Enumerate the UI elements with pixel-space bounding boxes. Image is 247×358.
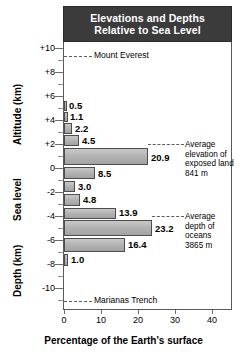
y-tick-minor bbox=[58, 180, 63, 181]
bar-2 bbox=[64, 123, 72, 134]
x-tick-label-30: 30 bbox=[163, 316, 187, 325]
y-tick-mark bbox=[55, 144, 63, 145]
bar-label-2: 2.2 bbox=[75, 124, 88, 134]
y-tick-minor bbox=[58, 204, 63, 205]
y-tick-minor bbox=[58, 252, 63, 253]
bar-label-4: 20.9 bbox=[151, 153, 170, 163]
chart-title-line-2: Relative to Sea Level bbox=[94, 24, 201, 37]
y-tick-mark bbox=[55, 72, 63, 73]
annotation-leader-line-land bbox=[148, 144, 184, 145]
x-tick-mark bbox=[101, 310, 102, 314]
chart-title-line-1: Elevations and Depths bbox=[90, 12, 205, 25]
y-tick-minor bbox=[58, 60, 63, 61]
bar-label-7: 4.8 bbox=[83, 195, 96, 205]
y-tick-label-10: +10 bbox=[11, 44, 55, 53]
bar-label-11: 1.0 bbox=[71, 255, 84, 265]
x-tick-mark bbox=[138, 310, 139, 314]
bar-3 bbox=[64, 135, 79, 146]
y-tick-minor bbox=[58, 228, 63, 229]
y-axis: +10 +8 +6 +4 +2 0 -2 -4 -6 -8 -10 bbox=[0, 0, 55, 358]
y-tick-mark bbox=[55, 216, 63, 217]
reference-label-marianas-trench: Marianas Trench bbox=[94, 296, 157, 305]
axis-group-label-altitude: Altitude (km) bbox=[12, 84, 23, 145]
bar-0 bbox=[64, 101, 67, 111]
y-tick-mark bbox=[55, 264, 63, 265]
axis-group-label-depth: Depth (km) bbox=[12, 245, 23, 297]
annotation-leader-line-ocean bbox=[152, 216, 184, 217]
x-tick-label-40: 40 bbox=[200, 316, 224, 325]
x-tick-mark bbox=[175, 310, 176, 314]
reference-label-mount-everest: Mount Everest bbox=[94, 51, 149, 60]
annotation-text-ocean: Average depth of oceans 3865 m bbox=[185, 212, 245, 250]
y-tick-minor bbox=[58, 156, 63, 157]
annotation-text-land: Average elevation of exposed land 841 m bbox=[185, 140, 245, 178]
y-tick-mark bbox=[55, 288, 63, 289]
bar-5 bbox=[64, 167, 95, 179]
y-tick-minor bbox=[58, 276, 63, 277]
y-tick-minor bbox=[58, 132, 63, 133]
y-tick-label-m6: -6 bbox=[11, 236, 55, 245]
chart-title-banner: Elevations and Depths Relative to Sea Le… bbox=[63, 6, 232, 42]
x-axis-title: Percentage of the Earth's surface bbox=[0, 335, 247, 346]
x-tick-mark bbox=[212, 310, 213, 314]
bar-9 bbox=[64, 220, 152, 236]
x-tick-label-0: 0 bbox=[52, 316, 76, 325]
y-tick-minor bbox=[58, 84, 63, 85]
bar-8 bbox=[64, 208, 116, 219]
bar-11 bbox=[64, 254, 68, 266]
y-tick-mark bbox=[55, 168, 63, 169]
y-tick-mark bbox=[55, 96, 63, 97]
bar-6 bbox=[64, 181, 75, 192]
bar-10 bbox=[64, 238, 125, 252]
y-tick-minor bbox=[58, 108, 63, 109]
y-tick-mark bbox=[55, 48, 63, 49]
bar-label-3: 4.5 bbox=[82, 136, 95, 146]
x-tick-mark bbox=[64, 310, 65, 314]
bar-label-0: 0.5 bbox=[69, 101, 82, 111]
y-tick-label-0: 0 bbox=[11, 164, 55, 173]
y-tick-label-8: +8 bbox=[11, 68, 55, 77]
bar-4 bbox=[64, 148, 148, 165]
x-tick-label-20: 20 bbox=[126, 316, 150, 325]
reference-line-marianas-trench bbox=[64, 301, 92, 302]
bar-1 bbox=[64, 112, 68, 122]
x-tick-label-10: 10 bbox=[89, 316, 113, 325]
bar-label-9: 23.2 bbox=[155, 224, 174, 234]
bar-7 bbox=[64, 194, 80, 206]
y-tick-mark bbox=[55, 240, 63, 241]
bar-label-1: 1.1 bbox=[70, 112, 83, 122]
bar-label-8: 13.9 bbox=[119, 208, 138, 218]
reference-line-mount-everest bbox=[64, 56, 92, 57]
bar-label-6: 3.0 bbox=[78, 182, 91, 192]
y-tick-mark bbox=[55, 192, 63, 193]
bar-label-10: 16.4 bbox=[128, 240, 147, 250]
bar-label-5: 8.5 bbox=[98, 169, 111, 179]
y-tick-mark bbox=[55, 120, 63, 121]
axis-group-label-sea-level: Sea level bbox=[12, 178, 23, 221]
y-tick-minor bbox=[58, 300, 63, 301]
chart-container: Elevations and Depths Relative to Sea Le… bbox=[0, 0, 247, 358]
